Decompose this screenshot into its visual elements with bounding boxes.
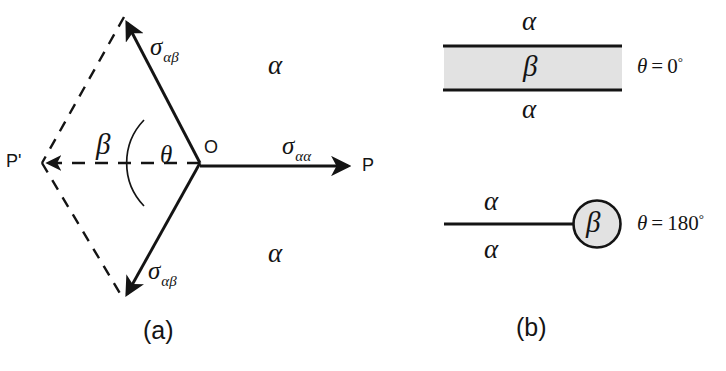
label-b-zero-beta-lamella: β xyxy=(523,52,537,81)
label-sigma-alpha-beta-upper: σαβ xyxy=(150,34,178,59)
dashed-construction-upper-left xyxy=(42,17,124,163)
degree-glyph-zero-case: ° xyxy=(678,54,683,69)
label-sigma-alpha-beta-lower: σαβ xyxy=(148,258,176,283)
label-point-p: P xyxy=(362,156,374,174)
equals-glyph-zero-case: = xyxy=(651,54,663,78)
sigma-subscript-lower: αβ xyxy=(161,273,176,289)
degree-glyph-180-case: ° xyxy=(699,211,704,226)
value-glyph-180-case: 180 xyxy=(667,211,699,235)
label-alpha-phase-lower: α xyxy=(268,240,282,267)
theta-glyph-zero-case: θ xyxy=(637,54,647,78)
sigma-glyph-horizontal: σ xyxy=(282,132,294,159)
equals-glyph-180-case: = xyxy=(651,211,663,235)
label-contact-angle-theta: θ xyxy=(160,142,172,167)
sigma-glyph-lower: σ xyxy=(148,257,160,284)
sigma-subscript-upper: αβ xyxy=(163,49,178,65)
label-condition-theta-zero: θ=0° xyxy=(637,56,683,77)
caption-panel-a: (a) xyxy=(143,318,174,343)
label-b-zero-alpha-upper: α xyxy=(522,8,536,35)
theta-glyph-180-case: θ xyxy=(637,211,647,235)
label-point-p-prime: P' xyxy=(6,152,21,170)
sigma-glyph-upper: σ xyxy=(150,33,162,60)
label-b-zero-alpha-lower: α xyxy=(522,96,536,123)
caption-panel-b: (b) xyxy=(516,315,547,340)
dashed-construction-lower-left xyxy=(42,163,124,300)
figure-root: σαβ σαβ σαα α α β θ O P' P (a) α β α θ=0… xyxy=(0,0,726,371)
label-sigma-alpha-alpha: σαα xyxy=(282,133,310,158)
sigma-subscript-horizontal: αα xyxy=(295,148,311,164)
value-glyph-zero-case: 0 xyxy=(667,54,678,78)
label-vertex-o: O xyxy=(204,138,218,156)
figure-vector-layer xyxy=(0,0,726,371)
label-alpha-phase-upper: α xyxy=(268,52,282,79)
label-b-onepointeighty-alpha-lower: α xyxy=(484,236,498,263)
label-b-onepointeighty-beta-droplet: β xyxy=(586,208,600,237)
label-condition-theta-onehundredeighty: θ=180° xyxy=(637,213,704,234)
label-beta-phase: β xyxy=(96,130,110,159)
label-b-onepointeighty-alpha-upper: α xyxy=(484,188,498,215)
